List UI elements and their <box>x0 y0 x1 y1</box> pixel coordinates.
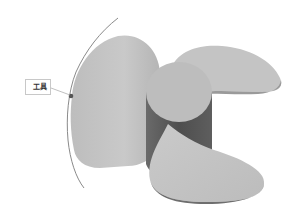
tooltip-label: 工具 <box>33 84 47 91</box>
hub-top[interactable] <box>146 62 212 122</box>
tooltip-leader <box>51 88 70 95</box>
tool-tooltip[interactable]: 工具 <box>25 79 51 95</box>
3d-viewport[interactable]: 工具 <box>0 0 301 220</box>
drag-grip-icon[interactable] <box>27 81 31 93</box>
propeller-model[interactable] <box>0 0 301 220</box>
